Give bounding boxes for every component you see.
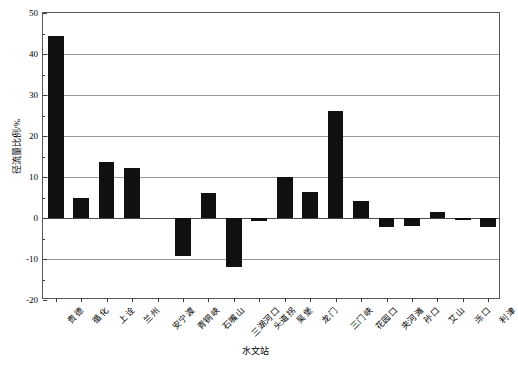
x-tick-mark <box>437 298 438 302</box>
x-tick-label: 上诠 <box>115 304 136 325</box>
x-tick-mark <box>56 298 57 302</box>
y-tick-label: 0 <box>34 213 39 223</box>
plot-area: -20-1001020304050 <box>42 12 500 299</box>
bar <box>226 218 242 267</box>
bar <box>404 218 420 226</box>
x-tick-mark <box>259 298 260 302</box>
x-tick-mark <box>310 298 311 302</box>
y-tick-label: 20 <box>29 131 38 141</box>
x-tick-mark <box>463 298 464 302</box>
x-axis-title: 水文站 <box>0 344 511 357</box>
bar <box>328 111 344 218</box>
bar <box>277 177 293 218</box>
bar <box>430 212 446 218</box>
y-tick-label: -10 <box>26 254 38 264</box>
x-tick-mark <box>183 298 184 302</box>
x-tick-label: 艾山 <box>446 304 467 325</box>
x-tick-label: 龙门 <box>318 304 339 325</box>
x-tick-mark <box>234 298 235 302</box>
x-tick-mark <box>208 298 209 302</box>
x-tick-mark <box>336 298 337 302</box>
x-tick-mark <box>158 298 159 302</box>
x-tick-mark <box>387 298 388 302</box>
x-tick-label: 循化 <box>89 304 110 325</box>
x-tick-label: 花园口 <box>372 304 400 332</box>
bar <box>99 162 115 218</box>
x-tick-mark <box>107 298 108 302</box>
bar <box>73 198 89 218</box>
x-tick-mark <box>132 298 133 302</box>
x-tick-label: 兰州 <box>140 304 161 325</box>
bar-series <box>43 13 499 298</box>
x-tick-label: 孙口 <box>420 304 441 325</box>
bar <box>353 201 369 218</box>
x-tick-label: 贵德 <box>64 304 85 325</box>
bar <box>480 218 496 227</box>
x-tick-mark <box>285 298 286 302</box>
y-tick-mark <box>43 300 47 301</box>
x-tick-mark <box>488 298 489 302</box>
x-tick-label: 石嘴山 <box>219 304 247 332</box>
bar <box>455 218 471 220</box>
bar <box>124 168 140 218</box>
x-tick-mark <box>81 298 82 302</box>
bar <box>175 218 191 256</box>
x-tick-mark <box>412 298 413 302</box>
y-tick-label: 10 <box>29 172 38 182</box>
bar <box>302 192 318 218</box>
x-tick-label: 安宁渡 <box>168 304 196 332</box>
x-tick-mark <box>361 298 362 302</box>
y-tick-label: 50 <box>29 8 38 18</box>
bar <box>201 193 217 218</box>
y-tick-label: 40 <box>29 49 38 59</box>
bar <box>48 36 64 218</box>
bar <box>251 218 267 221</box>
y-tick-label: 30 <box>29 90 38 100</box>
x-tick-label: 利津 <box>497 304 518 325</box>
y-axis-title: 径流量比例/% <box>10 87 23 207</box>
x-tick-label: 青铜峡 <box>194 304 222 332</box>
x-tick-label: 吴堡 <box>293 304 314 325</box>
x-tick-label: 泺口 <box>471 304 492 325</box>
bar <box>379 218 395 227</box>
x-tick-label: 三门峡 <box>347 304 375 332</box>
y-tick-label: -20 <box>26 295 38 305</box>
